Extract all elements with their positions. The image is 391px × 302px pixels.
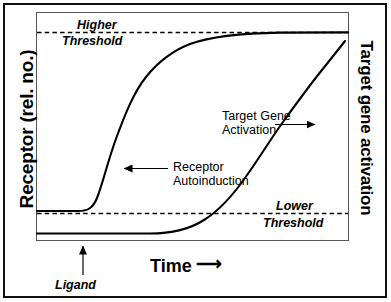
target-annotation-label: Target Gene Activation <box>222 109 291 137</box>
receptor-annotation-label: Receptor Autoinduction <box>173 160 249 188</box>
figure-root: Receptor (rel. no.) Target gene activati… <box>0 0 391 302</box>
lower-threshold-label-top: Lower <box>276 199 313 213</box>
time-arrow-icon: ⟶ <box>196 253 222 275</box>
higher-threshold-label-bottom: Threshold <box>62 34 122 48</box>
ligand-label: Ligand <box>55 278 96 292</box>
target-annotation-line1: Target Gene <box>222 109 291 123</box>
y-axis-right-title: Target gene activation <box>356 8 376 248</box>
receptor-annotation-line2: Autoinduction <box>173 174 249 188</box>
x-axis-title-text: Time <box>150 256 192 276</box>
target-annotation-line2: Activation <box>222 123 291 137</box>
higher-threshold-label-top: Higher <box>77 18 117 32</box>
lower-threshold-label-bottom: Threshold <box>263 216 323 230</box>
y-axis-left-title: Receptor (rel. no.) <box>16 9 38 249</box>
x-axis-title: Time⟶ <box>150 253 222 277</box>
receptor-annotation-line1: Receptor <box>173 160 249 174</box>
